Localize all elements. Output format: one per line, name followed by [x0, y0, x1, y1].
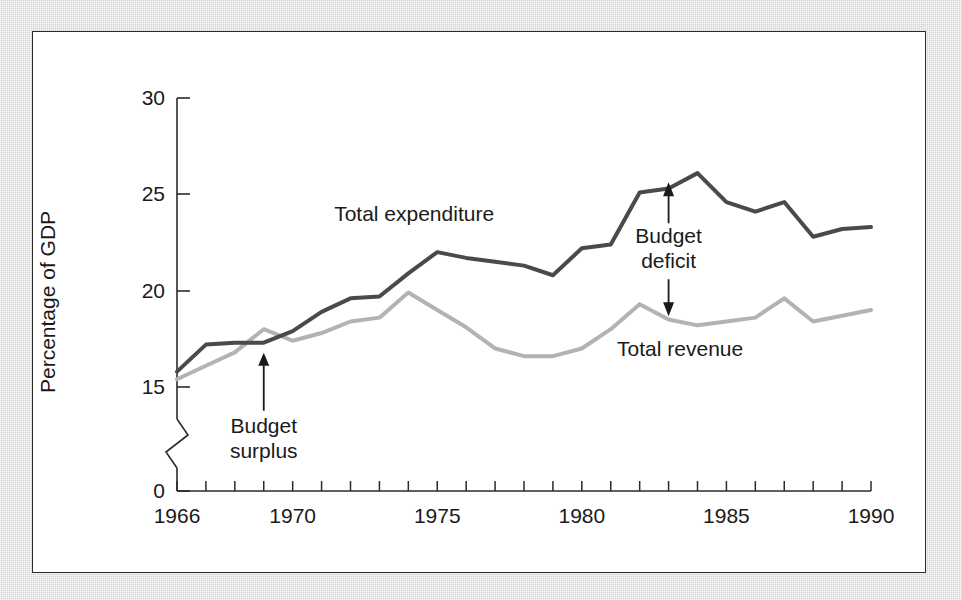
- y-tick-label-0: 0: [153, 479, 165, 502]
- budget-surplus-label-line1: Budget: [230, 414, 297, 437]
- x-tick-label-1980: 1980: [558, 504, 605, 527]
- series-label-total-expenditure: Total expenditure: [334, 202, 494, 225]
- x-tick-label-1966: 1966: [154, 504, 201, 527]
- x-axis-minor-ticks: [177, 481, 871, 491]
- x-tick-label-1970: 1970: [269, 504, 316, 527]
- x-tick-label-1975: 1975: [414, 504, 461, 527]
- annotation-budget-surplus: Budget surplus: [230, 353, 298, 462]
- series-group: [177, 173, 871, 379]
- x-axis: 196619701975198019851990: [154, 481, 895, 527]
- budget-chart: Percentage of GDP 30 25 20 15 0 19661: [33, 32, 927, 574]
- x-axis-tick-labels: 196619701975198019851990: [154, 504, 895, 527]
- budget-surplus-label-line2: surplus: [230, 439, 298, 462]
- series-line-total-expenditure: [177, 173, 871, 371]
- series-label-total-revenue: Total revenue: [617, 337, 743, 360]
- y-axis-title: Percentage of GDP: [36, 211, 59, 393]
- y-tick-label-30: 30: [142, 86, 165, 109]
- y-tick-label-25: 25: [142, 182, 165, 205]
- x-tick-label-1985: 1985: [703, 504, 750, 527]
- figure-card: Percentage of GDP 30 25 20 15 0 19661: [32, 31, 926, 573]
- y-tick-label-15: 15: [142, 375, 165, 398]
- y-tick-label-20: 20: [142, 279, 165, 302]
- annotation-budget-deficit: Budget deficit: [635, 182, 702, 316]
- x-tick-label-1990: 1990: [848, 504, 895, 527]
- y-axis: 30 25 20 15 0: [142, 86, 190, 502]
- budget-deficit-label-line2: deficit: [641, 249, 696, 272]
- budget-deficit-label-line1: Budget: [635, 224, 702, 247]
